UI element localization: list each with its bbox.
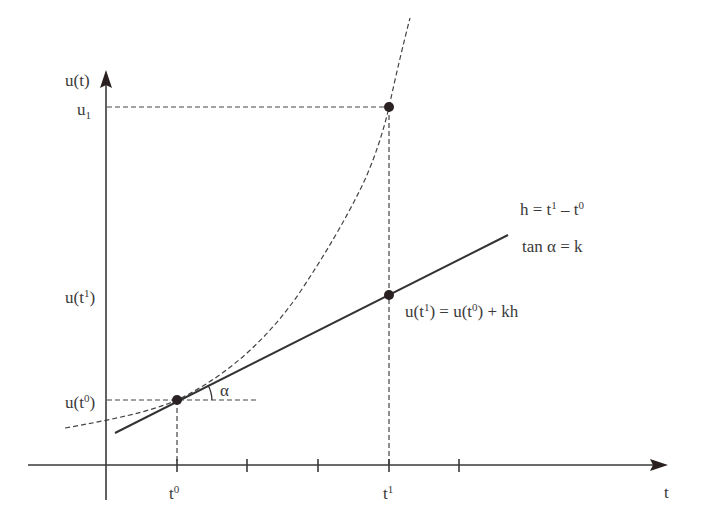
- diagram-canvas: [0, 0, 703, 523]
- ut0-close: ): [89, 393, 95, 412]
- y-tick-ut0: u(t0): [65, 393, 95, 411]
- euler-step-formula: u(t1) = u(t0) + kh: [405, 302, 518, 320]
- x-tick-t1: t1: [383, 484, 393, 502]
- x-axis-label: t: [664, 484, 669, 501]
- u1-sub: 1: [86, 109, 92, 121]
- x-tick-t0: t0: [169, 484, 179, 502]
- ut1-close: ): [89, 288, 95, 307]
- euler-method-diagram: u(t) u1 u(t1) u(t0) t0 t1 t h = t1 – t0 …: [0, 0, 703, 523]
- y-tick-u1: u1: [77, 101, 91, 121]
- t1-sup: 1: [388, 483, 394, 495]
- point-t1-euler: [384, 290, 394, 300]
- ut1-text: u(t: [65, 288, 84, 307]
- h-def-sup0: 0: [579, 199, 585, 211]
- ut0-text: u(t: [65, 393, 84, 412]
- h-def-text: h = t: [520, 200, 551, 219]
- y-tick-ut1: u(t1): [65, 288, 95, 306]
- exact-solution-curve: [65, 18, 410, 428]
- euler-text-b: ) = u(t: [429, 302, 472, 321]
- alpha-label: α: [220, 382, 229, 399]
- slope-definition: tan α = k: [522, 238, 583, 255]
- euler-text-a: u(t: [405, 302, 424, 321]
- euler-text-c: ) + kh: [478, 302, 519, 321]
- h-def-text2: – t: [557, 200, 579, 219]
- alpha-angle-arc: [208, 385, 212, 400]
- y-axis-label: u(t): [65, 72, 90, 89]
- t0-sup: 0: [174, 483, 180, 495]
- point-t1-exact: [384, 102, 394, 112]
- point-t0: [172, 395, 182, 405]
- u1-text: u: [77, 100, 86, 119]
- step-size-definition: h = t1 – t0: [520, 200, 584, 218]
